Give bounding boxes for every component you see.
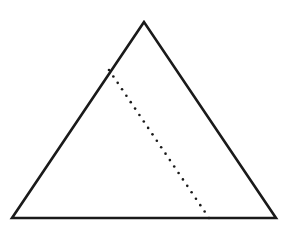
dot [138, 114, 141, 117]
dot [164, 152, 167, 155]
triangle-outline [12, 22, 276, 218]
dot [160, 146, 163, 149]
dot [177, 172, 180, 175]
dot [208, 217, 211, 220]
dot [108, 69, 111, 72]
dotted-segment [108, 69, 211, 220]
dot [112, 75, 115, 78]
dot [142, 120, 145, 123]
dot [121, 88, 124, 91]
dot [190, 191, 193, 194]
dot [156, 139, 159, 142]
dot [195, 197, 198, 200]
dot [203, 210, 206, 213]
dot [125, 94, 128, 97]
dot [116, 82, 119, 85]
dot [186, 185, 189, 188]
dot [129, 101, 132, 104]
dot [173, 165, 176, 168]
dot [169, 159, 172, 162]
dot [147, 127, 150, 130]
dot [182, 178, 185, 181]
triangle-diagram [0, 0, 281, 233]
dot [134, 107, 137, 110]
dot [151, 133, 154, 136]
dot [199, 204, 202, 207]
